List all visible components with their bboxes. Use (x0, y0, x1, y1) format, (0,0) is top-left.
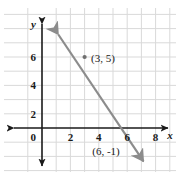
y-axis-label: y (29, 18, 36, 30)
y-tick-label-4: 4 (31, 79, 37, 91)
y-tick-label-6: 6 (31, 51, 37, 63)
x-tick-label-6: 6 (124, 131, 130, 143)
x-axis-label: x (166, 129, 173, 141)
y-tick-label-2: 2 (31, 108, 37, 120)
x-tick-label-8: 8 (153, 131, 159, 143)
x-tick-label-2: 2 (68, 131, 74, 143)
origin-label: 0 (31, 131, 37, 143)
point-label-6-neg1: (6, -1) (92, 145, 120, 158)
graph-background (0, 0, 177, 174)
point-label-3-5: (3, 5) (91, 52, 115, 65)
x-tick-label-4: 4 (96, 131, 102, 143)
coordinate-graph: 6 4 2 0 2 4 6 8 y x (3, 5) (6, -1) (0, 0, 177, 174)
data-point-marker (83, 55, 87, 59)
graph-canvas: 6 4 2 0 2 4 6 8 y x (3, 5) (6, -1) (0, 0, 177, 174)
